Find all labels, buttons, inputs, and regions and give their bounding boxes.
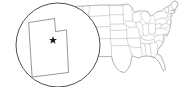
state-michigan [141,11,151,23]
map-canvas [0,0,183,87]
state-wisconsin [133,11,142,23]
state-indiana [143,24,150,37]
state-ohio [149,23,156,35]
state-montana [89,5,110,17]
state-kansas [111,30,128,39]
us-state-locator-map [0,0,183,87]
state-virginia [155,28,169,35]
state-new-jersey [167,19,171,25]
state-oklahoma [111,39,129,47]
magnified-utah-inset [16,3,100,87]
state-north-dakota [110,5,124,15]
state-nebraska [110,24,127,31]
state-south-dakota [110,15,124,24]
